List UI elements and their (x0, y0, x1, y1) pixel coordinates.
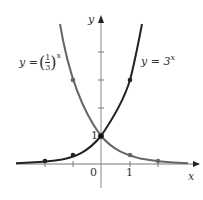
x-tick-label-1: 1 (126, 167, 133, 178)
label-three-power: y = 3x (141, 56, 175, 67)
x-axis-arrow-icon (193, 161, 200, 167)
label-left-prefix: y = (19, 57, 38, 68)
intersection-point (98, 133, 104, 139)
origin-label: 0 (90, 167, 97, 178)
label-one-third-power: y = ( 1 3 ) x (19, 53, 61, 72)
label-left-exponent: x (57, 52, 62, 60)
chart-canvas (0, 0, 203, 200)
y-tick-label-1: 1 (91, 130, 98, 141)
y-axis-arrow-icon (98, 15, 104, 23)
label-right-base: y = 3 (141, 55, 170, 68)
label-right-exponent: x (170, 53, 175, 62)
y-axis-label: y (88, 14, 94, 25)
x-axis-label: x (188, 171, 194, 182)
